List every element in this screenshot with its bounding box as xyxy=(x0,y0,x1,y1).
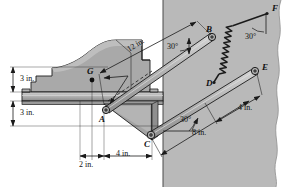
dimension-label-2in: 2 in. xyxy=(79,161,93,169)
point-label-C: C xyxy=(144,140,150,149)
point-label-G: G xyxy=(87,67,94,76)
point-label-B: B xyxy=(206,25,212,34)
point-label-F: F xyxy=(272,4,278,13)
angle-label-C: 30° xyxy=(180,116,191,124)
angle-label-F: 30° xyxy=(245,33,256,41)
point-label-E: E xyxy=(262,63,268,72)
mechanics-figure: B F D E A C G 12 in. 3 in. 3 in. 2 in. 4… xyxy=(0,0,284,187)
figure-canvas xyxy=(0,0,284,187)
point-label-D: D xyxy=(206,79,213,88)
angle-label-B: 30° xyxy=(167,43,178,51)
dimension-label-3in-lower: 3 in. xyxy=(20,109,34,117)
dimension-label-8in: 8 in. xyxy=(192,129,206,137)
dimension-label-4in-link: 4 in. xyxy=(238,104,252,112)
point-label-A: A xyxy=(99,115,105,124)
dimension-label-4in-base: 4 in. xyxy=(116,150,130,158)
dimension-label-3in-upper: 3 in. xyxy=(20,75,34,83)
